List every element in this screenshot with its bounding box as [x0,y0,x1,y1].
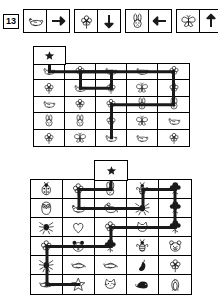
cell-r3c5-rabbit[interactable] [158,97,189,114]
arrow-down-icon [98,10,120,32]
cell-r1c2-flower[interactable] [65,64,96,81]
cell-r2c5-flower[interactable] [158,80,189,97]
rabbit-icon [126,10,149,32]
cell-r4c2-rabbit[interactable] [65,113,96,130]
cell-r1c4-seal[interactable] [127,64,158,81]
arrow-right-icon [47,10,69,32]
cell-r5c4-chili[interactable] [127,256,159,275]
cell-r2c4-butterfly[interactable] [127,80,158,97]
star-icon [44,50,55,61]
cell-r4c1-flower[interactable] [31,237,63,256]
cell-r3c4-cat-face[interactable] [127,218,159,237]
legend-rules [23,9,218,33]
cell-r1c1-ladybug[interactable] [31,180,63,199]
cell-r3c5-tree[interactable] [159,218,191,237]
cell-r6c1-bird[interactable] [31,275,63,294]
board-two-grid [30,179,192,295]
cell-r2c2-seal[interactable] [65,80,96,97]
cell-r5c3-bird[interactable] [95,256,127,275]
cell-r3c3-flower[interactable] [95,218,127,237]
cell-r2c2-seal[interactable] [63,199,95,218]
cell-r3c2-flower[interactable] [65,97,96,114]
cell-r1c4-bee[interactable] [127,180,159,199]
cell-r4c1-rabbit[interactable] [34,113,65,130]
cell-r5c5-flower[interactable] [159,256,191,275]
cell-r2c1-owl[interactable] [31,199,63,218]
cell-r1c3-seal[interactable] [96,64,127,81]
board-two-start-cell [94,160,128,181]
cell-r3c1-seal[interactable] [34,97,65,114]
puzzle-number: 13 [3,14,19,29]
cell-r1c5-flower[interactable] [158,64,189,81]
cell-r3c3-flower[interactable] [96,97,127,114]
cell-r1c2-flower[interactable] [63,180,95,199]
legend-rule-1 [23,9,70,33]
cell-r4c5-bear-face[interactable] [159,237,191,256]
legend-bar: 13 [3,8,215,34]
cell-r2c3-mouse[interactable] [95,199,127,218]
cell-r5c1-flower[interactable] [34,130,65,147]
cell-r4c4-butterfly[interactable] [127,113,158,130]
cell-r3c2-heart[interactable] [63,218,95,237]
cell-r6c2-star-small[interactable] [63,275,95,294]
board-one-grid [33,63,190,148]
cell-r1c1-seal[interactable] [34,64,65,81]
flower-icon [75,10,98,32]
cell-r2c4-spider[interactable] [127,199,159,218]
cell-r4c2-panda[interactable] [63,237,95,256]
cell-r1c3-rabbit[interactable] [95,180,127,199]
cell-r1c5-tree[interactable] [159,180,191,199]
legend-rule-4 [176,9,218,33]
cell-r5c5-flower[interactable] [158,130,189,147]
star-icon [106,165,117,176]
cell-r6c5-penguin[interactable] [159,275,191,294]
cell-r6c4-hedgehog[interactable] [127,275,159,294]
cell-r5c1-spider[interactable] [31,256,63,275]
board-one-start-cell [33,46,66,65]
cell-r6c3-cat-face[interactable] [95,275,127,294]
cell-r4c3-flower[interactable] [96,113,127,130]
arrow-left-icon [149,10,171,32]
cell-r4c3-tree[interactable] [95,237,127,256]
cell-r2c3-flower[interactable] [96,80,127,97]
cell-r3c4-rabbit[interactable] [127,97,158,114]
cell-r5c2-butterfly[interactable] [65,130,96,147]
butterfly-icon [177,10,200,32]
cell-r2c1-flower[interactable] [34,80,65,97]
cell-r4c5-seal[interactable] [158,113,189,130]
cell-r3c1-spider[interactable] [31,218,63,237]
cell-r5c2-bird[interactable] [63,256,95,275]
legend-rule-3 [125,9,172,33]
seal-icon [24,10,47,32]
arrow-up-icon [200,10,218,32]
cell-r4c4-bee[interactable] [127,237,159,256]
legend-rule-2 [74,9,121,33]
cell-r2c5-tree[interactable] [159,199,191,218]
cell-r5c4-seal[interactable] [127,130,158,147]
cell-r5c3-seal[interactable] [96,130,127,147]
